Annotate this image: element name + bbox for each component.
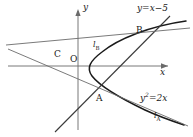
math-figure: y x O A B C y=x−5 y2=2x lA lB <box>0 0 193 137</box>
x-axis-label: x <box>160 68 165 77</box>
point-label-c: C <box>54 50 61 59</box>
point-label-a: A <box>96 94 103 103</box>
origin-label: O <box>70 55 77 64</box>
x-axis <box>8 63 168 68</box>
parabola-equation-label: y2=2x <box>140 92 167 103</box>
secant-line-ab <box>55 16 170 132</box>
point-label-b: B <box>136 26 143 35</box>
y-axis <box>75 9 80 130</box>
parabola-equation-rest: =2x <box>149 93 167 103</box>
y-axis-arrow <box>75 9 80 16</box>
tangent-a-subscript: A <box>157 116 161 122</box>
y-axis-label: y <box>83 3 88 12</box>
parabola-curve <box>89 21 186 125</box>
secant-equation-label: y=x−5 <box>137 4 168 13</box>
tangent-a-label: lA <box>154 112 161 122</box>
tangent-b-subscript: B <box>96 45 100 51</box>
tangent-line-a <box>8 49 188 126</box>
tangent-b-label: lB <box>93 41 100 51</box>
